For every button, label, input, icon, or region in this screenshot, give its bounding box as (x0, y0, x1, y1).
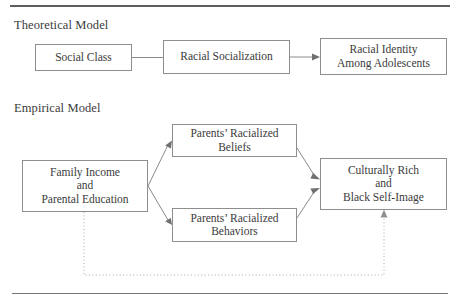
node-parents-beliefs-line1: Parents’ Racialized (176, 127, 293, 141)
edge-family-income-to-parents-beliefs (148, 145, 168, 186)
node-social-class[interactable]: Social Class (35, 44, 132, 71)
arrowhead-to-racial-identity (312, 54, 320, 61)
arrowhead-to-parents-beliefs (165, 141, 172, 149)
node-racial-identity-text: Racial Identity Among Adolescents (324, 43, 443, 70)
node-parents-beliefs-line2: Beliefs (176, 141, 293, 155)
node-culturally-rich-text: Culturally Rich and Black Self-Image (324, 164, 443, 205)
node-family-income-line1: Family Income (26, 166, 144, 180)
node-parents-behaviors-line2: Behaviors (176, 225, 293, 239)
node-family-income-text: Family Income and Parental Education (26, 166, 144, 207)
node-family-income[interactable]: Family Income and Parental Education (22, 160, 148, 212)
arrowhead-behaviors-to-culturally-rich (310, 188, 320, 194)
node-culturally-rich-line2: and (324, 177, 443, 191)
node-culturally-rich-line3: Black Self-Image (324, 191, 443, 205)
node-racial-socialization[interactable]: Racial Socialization (163, 40, 290, 74)
edge-family-income-to-parents-behaviors (148, 186, 168, 220)
node-parents-racialized-behaviors[interactable]: Parents’ Racialized Behaviors (172, 208, 297, 242)
arrowhead-dotted-to-culturally-rich (381, 210, 388, 218)
figure-container: Theoretical Model Empirical Model Social… (0, 0, 460, 305)
edge-parents-behaviors-to-culturally-rich (297, 192, 314, 218)
node-parents-beliefs-text: Parents’ Racialized Beliefs (176, 127, 293, 154)
arrowhead-to-parents-behaviors (165, 218, 172, 225)
node-parents-racialized-beliefs[interactable]: Parents’ Racialized Beliefs (172, 124, 297, 157)
edge-parents-beliefs-to-culturally-rich (297, 148, 314, 175)
node-parents-behaviors-text: Parents’ Racialized Behaviors (176, 212, 293, 239)
node-racial-identity-line1: Racial Identity (324, 43, 443, 57)
node-family-income-line3: Parental Education (26, 193, 144, 207)
node-social-class-label: Social Class (39, 51, 128, 65)
node-culturally-rich-black-self-image[interactable]: Culturally Rich and Black Self-Image (320, 158, 447, 210)
arrowhead-beliefs-to-culturally-rich (310, 173, 320, 180)
node-culturally-rich-line1: Culturally Rich (324, 164, 443, 178)
node-racial-identity-line2: Among Adolescents (324, 57, 443, 71)
node-racial-identity[interactable]: Racial Identity Among Adolescents (320, 38, 447, 75)
node-family-income-line2: and (26, 179, 144, 193)
node-parents-behaviors-line1: Parents’ Racialized (176, 212, 293, 226)
node-racial-socialization-label: Racial Socialization (167, 50, 286, 64)
